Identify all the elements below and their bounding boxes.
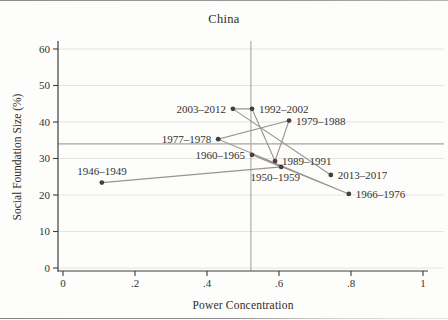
- y-tick-label: 40: [39, 116, 51, 128]
- figure-page: China Social Foundation Size (%) Power C…: [0, 0, 448, 320]
- y-tick-label: 50: [39, 79, 51, 91]
- data-point: [250, 152, 255, 157]
- data-point-label: 1992–2002: [259, 103, 309, 115]
- data-point-label: 1979–1988: [296, 115, 346, 127]
- data-point: [216, 137, 221, 142]
- data-point: [99, 180, 104, 185]
- x-tick-label: 0: [60, 277, 66, 289]
- y-tick-label: 20: [39, 189, 51, 201]
- y-tick-label: 30: [39, 152, 51, 164]
- data-point-label: 2003–2012: [176, 103, 226, 115]
- y-tick-label: 10: [39, 225, 51, 237]
- page-bottom-rule: [0, 318, 448, 319]
- data-point: [346, 192, 351, 197]
- data-point: [273, 159, 278, 164]
- x-tick-label: .8: [347, 277, 356, 289]
- data-point: [250, 106, 255, 111]
- data-point-label: 1977–1978: [162, 133, 212, 145]
- data-point-label: 1966–1976: [356, 188, 406, 200]
- data-point-label: 1950–1959: [250, 171, 300, 183]
- data-point-label: 2013–2017: [338, 169, 388, 181]
- x-tick-label: 1: [420, 277, 426, 289]
- data-point-label: 1989–1991: [282, 155, 332, 167]
- x-tick-label: .2: [131, 277, 139, 289]
- china-trajectory-chart: 01020304050600.2.4.6.811946–19491950–195…: [0, 0, 448, 320]
- data-point-label: 1946–1949: [77, 165, 127, 177]
- x-tick-label: .4: [203, 277, 212, 289]
- data-point: [231, 106, 236, 111]
- x-tick-label: .6: [275, 277, 284, 289]
- y-tick-label: 0: [45, 262, 51, 274]
- y-tick-label: 60: [39, 43, 51, 55]
- data-point-label: 1960–1965: [196, 149, 246, 161]
- data-point: [328, 173, 333, 178]
- data-point: [287, 118, 292, 123]
